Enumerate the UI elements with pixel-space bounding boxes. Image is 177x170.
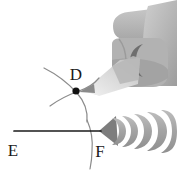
pencil-tip <box>79 84 95 93</box>
label-D: D <box>70 65 82 84</box>
point-D-dot <box>72 87 79 94</box>
arc-through-F <box>87 120 92 169</box>
compass-scalloped-ruler <box>99 110 177 153</box>
geometry-figure: D E F <box>0 0 177 170</box>
label-E: E <box>8 141 18 160</box>
pencil <box>79 56 140 96</box>
label-F: F <box>95 142 104 161</box>
figure-canvas: D E F <box>0 0 177 170</box>
